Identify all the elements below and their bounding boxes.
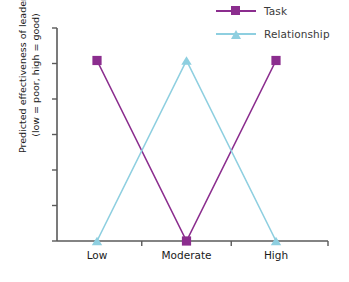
y-axis-title-line-1: Predicted effectiveness of leader [17, 0, 30, 153]
data-point-relationship [181, 56, 191, 64]
x-tick-label-high: High [264, 249, 288, 261]
plot-canvas [57, 28, 328, 241]
x-axis-tick-labels: LowModerateHigh [57, 249, 328, 267]
y-axis-title-line-2: (low = poor, high = good) [30, 13, 43, 137]
series-line-task [97, 60, 276, 241]
chart-figure: Task Relationship Predicted effectivenes… [0, 0, 349, 282]
square-marker-icon [231, 6, 240, 15]
series-layer [92, 56, 281, 246]
series-line-relationship [97, 60, 276, 241]
x-tick-label-moderate: Moderate [162, 249, 212, 261]
plot-area [57, 28, 328, 241]
y-axis-title: Predicted effectiveness of leader (low =… [15, 0, 45, 175]
legend-item-task[interactable]: Task [216, 4, 349, 18]
data-point-task [271, 56, 280, 65]
x-tick-label-low: Low [87, 249, 108, 261]
data-point-task [92, 56, 101, 65]
legend-key-task [216, 4, 256, 18]
legend-label-task: Task [264, 5, 287, 17]
data-point-task [182, 236, 191, 245]
